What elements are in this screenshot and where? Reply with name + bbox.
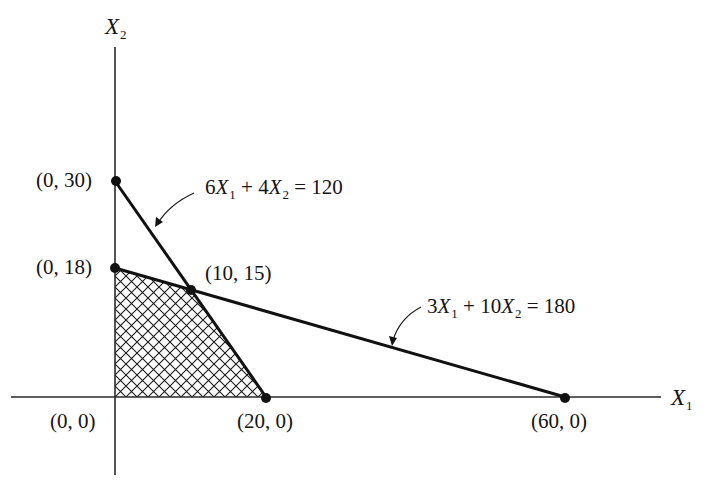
point-20-0: [261, 393, 271, 403]
arrow-to-constraint-2: [393, 307, 421, 340]
var: X: [501, 294, 514, 318]
x-axis-label-sub: 1: [686, 398, 693, 413]
y-axis-label: X2: [105, 15, 127, 41]
arrow-to-constraint-1: [158, 193, 194, 223]
point-60-0: [560, 393, 570, 403]
coef: 6: [205, 175, 216, 199]
point-label-0-0: (0, 0): [50, 411, 96, 432]
arrowhead-icon: [389, 336, 397, 346]
lp-diagram: [0, 0, 709, 487]
y-axis-label-main: X: [105, 14, 119, 39]
coef: + 10: [458, 294, 501, 318]
constraint-label-2: 3X1 + 10X2 = 180: [427, 296, 575, 320]
point-label-20-0: (20, 0): [237, 411, 293, 432]
x-axis-label: X1: [671, 386, 693, 412]
rhs: = 120: [289, 175, 343, 199]
coef: 3: [427, 294, 438, 318]
point-10-15: [186, 285, 196, 295]
x-axis-label-main: X: [671, 385, 685, 410]
point-label-60-0: (60, 0): [531, 411, 587, 432]
point-label-10-15: (10, 15): [205, 263, 272, 284]
var: X: [269, 175, 282, 199]
constraint-label-1: 6X1 + 4X2 = 120: [205, 177, 343, 201]
coef: + 4: [236, 175, 269, 199]
rhs: = 180: [522, 294, 576, 318]
point-0-18: [110, 263, 120, 273]
var: X: [438, 294, 451, 318]
y-axis-label-sub: 2: [120, 27, 127, 42]
var: X: [216, 175, 229, 199]
point-label-0-30: (0, 30): [36, 170, 92, 191]
point-label-0-18: (0, 18): [36, 257, 92, 278]
point-0-30: [111, 176, 121, 186]
